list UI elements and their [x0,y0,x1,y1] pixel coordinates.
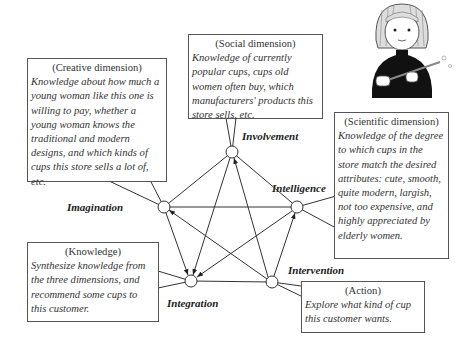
node-involvement [226,146,238,158]
creative-dimension-box: (Creative dimension) Knowledge about how… [27,58,167,182]
label-intervention: Intervention [288,264,344,276]
social-dimension-box: (Social dimension) Knowledge of currentl… [188,34,323,119]
knowledge-heading: (Knowledge) [31,245,155,259]
node-integration [185,275,197,287]
action-heading: (Action) [305,284,421,298]
label-imagination: Imagination [67,201,123,213]
creative-body: Knowledge about how much a young woman l… [31,75,163,189]
social-body: Knowledge of currently popular cups, cup… [192,51,319,122]
young-woman-illustration [346,0,458,98]
knowledge-box: (Knowledge) Synthesize knowledge from th… [27,242,159,322]
node-intelligence [291,201,303,213]
social-heading: (Social dimension) [192,37,319,51]
creative-heading: (Creative dimension) [31,61,163,75]
label-involvement: Involvement [242,130,298,142]
scientific-dimension-box: (Scientific dimension) Knowledge of the … [334,112,449,259]
label-integration: Integration [167,297,218,309]
scientific-body: Knowledge of the degree to which cups in… [338,129,445,243]
node-imagination [158,201,170,213]
action-box: (Action) Explore what kind of cup this c… [301,281,425,333]
knowledge-body: Synthesize knowledge from the three dime… [31,259,155,316]
scientific-heading: (Scientific dimension) [338,115,445,129]
action-body: Explore what kind of cup this customer w… [305,298,421,326]
node-intervention [266,276,278,288]
label-intelligence: Intelligence [272,182,326,194]
